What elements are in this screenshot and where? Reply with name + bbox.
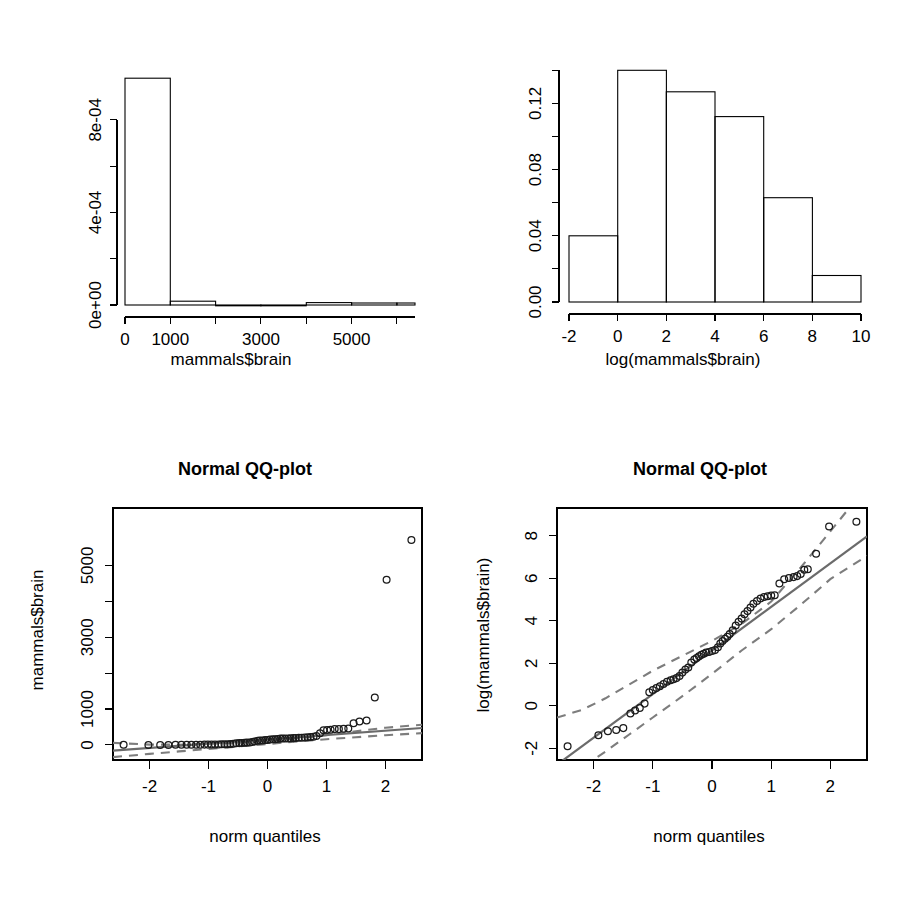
qq-brain-svg: Normal QQ-plot 0100030005000 -2-1012 nor… bbox=[0, 430, 461, 904]
histogram-bar bbox=[618, 70, 667, 302]
qq-brain-band bbox=[113, 725, 422, 757]
hist-brain-bars bbox=[125, 78, 415, 306]
hist-brain-xlabel: mammals$brain bbox=[171, 350, 292, 369]
panel-histogram-log-brain: 0.000.040.080.12 -20246810 log(mammals$b… bbox=[461, 0, 923, 430]
tick-label: 8e-04 bbox=[86, 98, 105, 141]
data-point bbox=[564, 743, 571, 750]
histogram-bar bbox=[261, 305, 306, 306]
tick-label: 1 bbox=[766, 777, 775, 796]
qq-brain-ylabel: mammals$brain bbox=[28, 570, 47, 691]
tick-label: -2 bbox=[561, 327, 576, 346]
histogram-bar bbox=[170, 301, 215, 305]
reference-line bbox=[113, 728, 422, 751]
plot-frame bbox=[113, 508, 422, 760]
tick-label: 0 bbox=[120, 330, 129, 349]
plot-page: 0e+004e-048e-04 0100030005000 mammals$br… bbox=[0, 0, 923, 904]
tick-label: 3000 bbox=[78, 618, 97, 656]
qq-log-ylabel: log(mammals$brain) bbox=[474, 558, 493, 713]
hist-brain-yaxis: 0e+004e-048e-04 bbox=[86, 98, 117, 329]
hist-log-bars bbox=[569, 70, 861, 302]
data-point bbox=[613, 727, 620, 734]
qq-brain-yaxis: 0100030005000 bbox=[78, 547, 113, 750]
qq-log-brain-svg: Normal QQ-plot -202468 -2-1012 norm quan… bbox=[461, 430, 923, 904]
tick-label: 0 bbox=[522, 701, 541, 710]
plot-frame bbox=[557, 508, 867, 760]
data-point bbox=[120, 741, 127, 748]
histogram-bar bbox=[764, 198, 813, 302]
tick-label: 0.04 bbox=[526, 219, 545, 252]
tick-label: -2 bbox=[142, 777, 157, 796]
data-point bbox=[620, 725, 627, 732]
tick-label: 0.12 bbox=[526, 87, 545, 120]
tick-label: 0 bbox=[263, 777, 272, 796]
tick-label: 4e-04 bbox=[86, 191, 105, 234]
tick-label: 4 bbox=[710, 327, 719, 346]
tick-label: 3000 bbox=[242, 330, 280, 349]
confidence-band-upper bbox=[557, 506, 851, 718]
hist-log-xaxis: -20246810 bbox=[561, 314, 870, 346]
histogram-bar bbox=[125, 78, 170, 305]
qq-log-band bbox=[557, 506, 867, 782]
qq-log-points bbox=[564, 518, 860, 749]
qq-log-title: Normal QQ-plot bbox=[633, 459, 767, 479]
tick-label: 2 bbox=[662, 327, 671, 346]
tick-label: 8 bbox=[808, 327, 817, 346]
data-point bbox=[853, 518, 860, 525]
qq-brain-frame bbox=[113, 508, 422, 760]
hist-log-xlabel: log(mammals$brain) bbox=[606, 350, 761, 369]
hist-log-yaxis: 0.000.040.080.12 bbox=[526, 70, 559, 318]
qq-log-frame bbox=[557, 508, 867, 760]
tick-label: 0 bbox=[78, 740, 97, 749]
tick-label: 0.00 bbox=[526, 285, 545, 318]
qq-brain-xlabel: norm quantiles bbox=[209, 827, 321, 846]
histogram-bar bbox=[216, 305, 261, 306]
qq-brain-title: Normal QQ-plot bbox=[178, 459, 312, 479]
hist-brain-xaxis: 0100030005000 bbox=[120, 317, 415, 349]
data-point bbox=[363, 717, 370, 724]
tick-label: 0e+00 bbox=[86, 281, 105, 329]
histogram-bar bbox=[812, 276, 861, 303]
tick-label: 2 bbox=[826, 777, 835, 796]
data-point bbox=[813, 550, 820, 557]
tick-label: 5000 bbox=[78, 547, 97, 585]
qq-log-xlabel: norm quantiles bbox=[653, 827, 765, 846]
data-point bbox=[826, 523, 833, 530]
tick-label: 6 bbox=[522, 573, 541, 582]
panel-histogram-brain: 0e+004e-048e-04 0100030005000 mammals$br… bbox=[0, 0, 461, 430]
histogram-bar bbox=[352, 303, 397, 305]
tick-label: 0 bbox=[707, 777, 716, 796]
panel-qq-brain: Normal QQ-plot 0100030005000 -2-1012 nor… bbox=[0, 430, 461, 904]
tick-label: -2 bbox=[522, 741, 541, 756]
tick-label: 1000 bbox=[78, 690, 97, 728]
tick-label: 8 bbox=[522, 531, 541, 540]
tick-label: -2 bbox=[586, 777, 601, 796]
tick-label: 2 bbox=[522, 659, 541, 668]
tick-label: 4 bbox=[522, 616, 541, 625]
histogram-bar bbox=[397, 303, 415, 305]
histogram-bar bbox=[569, 236, 618, 302]
qq-log-yaxis: -202468 bbox=[522, 531, 557, 756]
data-point bbox=[781, 576, 788, 583]
tick-label: 10 bbox=[852, 327, 871, 346]
tick-label: 6 bbox=[759, 327, 768, 346]
histogram-bar bbox=[666, 92, 715, 302]
tick-label: 2 bbox=[381, 777, 390, 796]
qq-brain-xaxis: -2-1012 bbox=[142, 760, 390, 796]
tick-label: -1 bbox=[645, 777, 660, 796]
histogram-bar bbox=[715, 117, 764, 302]
data-point bbox=[408, 537, 415, 544]
data-point bbox=[371, 694, 378, 701]
data-point bbox=[605, 728, 612, 735]
qq-brain-points bbox=[120, 537, 415, 749]
confidence-band-lower bbox=[557, 556, 867, 783]
tick-label: 5000 bbox=[333, 330, 371, 349]
data-point bbox=[383, 576, 390, 583]
panel-qq-log-brain: Normal QQ-plot -202468 -2-1012 norm quan… bbox=[461, 430, 923, 904]
tick-label: 0 bbox=[613, 327, 622, 346]
histogram-brain-svg: 0e+004e-048e-04 0100030005000 mammals$br… bbox=[0, 0, 461, 430]
tick-label: -1 bbox=[201, 777, 216, 796]
tick-label: 1000 bbox=[151, 330, 189, 349]
histogram-log-brain-svg: 0.000.040.080.12 -20246810 log(mammals$b… bbox=[461, 0, 923, 430]
tick-label: 0.08 bbox=[526, 153, 545, 186]
qq-brain-refline bbox=[113, 728, 422, 751]
